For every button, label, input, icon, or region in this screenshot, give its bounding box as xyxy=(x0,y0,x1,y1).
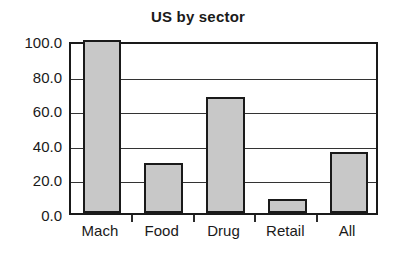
bar-mach[interactable] xyxy=(83,40,122,213)
y-axis-tick-label: 0.0 xyxy=(0,207,62,224)
x-axis-tick-mark xyxy=(316,215,318,222)
y-axis-tick-label: 80.0 xyxy=(0,68,62,85)
y-axis-tick-label: 100.0 xyxy=(0,34,62,51)
y-axis-tick-label: 40.0 xyxy=(0,137,62,154)
bar-food[interactable] xyxy=(144,163,183,213)
y-axis-tick-label: 60.0 xyxy=(0,103,62,120)
x-axis-tick-label: Drug xyxy=(207,222,240,239)
bar-all[interactable] xyxy=(330,152,369,213)
x-axis-tick-label: Retail xyxy=(266,222,304,239)
bar-drug[interactable] xyxy=(206,97,245,213)
x-axis-tick-mark xyxy=(131,215,133,222)
chart-figure: US by sector 0.020.040.060.080.0100.0 Ma… xyxy=(0,0,396,262)
y-axis-tick-label: 20.0 xyxy=(0,172,62,189)
bars-layer xyxy=(71,44,376,213)
y-axis-tick-labels: 0.020.040.060.080.0100.0 xyxy=(0,42,64,215)
bar-retail[interactable] xyxy=(268,199,307,213)
x-axis-tick-label: All xyxy=(339,222,356,239)
x-axis-tick-mark xyxy=(254,215,256,222)
plot-area xyxy=(69,42,378,215)
x-axis-tick-label: Mach xyxy=(82,222,119,239)
x-axis-tick-labels: MachFoodDrugRetailAll xyxy=(69,222,378,248)
x-axis-tick-label: Food xyxy=(145,222,179,239)
x-axis-tick-mark xyxy=(193,215,195,222)
chart-title: US by sector xyxy=(0,8,396,25)
